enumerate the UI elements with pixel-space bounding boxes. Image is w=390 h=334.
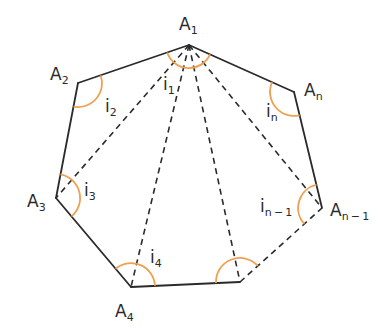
angle-label-in: in: [266, 101, 278, 124]
diagonal-a1-a5: [189, 45, 240, 282]
diagonal-a1-a4: [131, 45, 189, 287]
angle-label-i1: i1: [163, 74, 175, 97]
vertex-label-an1: An − 1: [330, 200, 369, 223]
edge-a4-a5: [131, 282, 240, 287]
angle-labels: i1 i2 i3 i4 in − 1 in: [84, 74, 292, 270]
vertex-labels: A1 A2 A3 A4 An − 1 An: [27, 14, 369, 324]
angle-arc-a1: [167, 53, 210, 69]
angle-arcs: [61, 53, 317, 286]
edge-a3-a4: [56, 198, 131, 287]
angle-arc-an1: [298, 185, 316, 224]
edge-an1-an: [294, 92, 322, 208]
polygon-diagram: A1 A2 A3 A4 An − 1 An i1 i2 i3 i4 in − 1…: [0, 0, 390, 334]
angle-label-in1: in − 1: [260, 196, 292, 219]
vertex-label-a1: A1: [179, 14, 198, 37]
diagonals: [56, 45, 322, 287]
angle-label-i3: i3: [84, 180, 96, 203]
vertex-label-a4: A4: [115, 301, 134, 324]
edge-an-a1: [189, 45, 294, 92]
edge-a2-a3: [56, 83, 78, 198]
polygon-edges: [56, 45, 322, 287]
vertex-label-an: An: [304, 80, 323, 103]
vertex-label-a2: A2: [50, 64, 69, 87]
edge-a5-an1-dashed: [240, 208, 322, 282]
angle-label-i4: i4: [150, 247, 162, 270]
angle-label-i2: i2: [105, 96, 117, 119]
vertex-label-a3: A3: [27, 191, 46, 214]
